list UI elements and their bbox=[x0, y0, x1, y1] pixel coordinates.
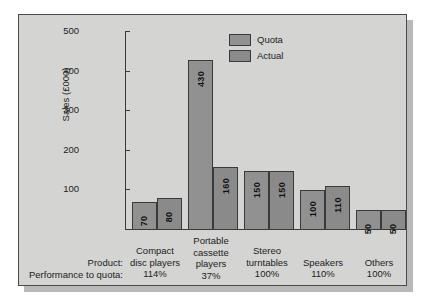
y-tick-label-300: 300 bbox=[39, 105, 79, 114]
y-tick-label-500: 500 bbox=[39, 26, 79, 35]
bar-value-actual-portable-cassette-players: 160 bbox=[220, 178, 230, 194]
bar-value-actual-speakers: 110 bbox=[332, 198, 342, 213]
bar-quota-compact-disc-players: 70 bbox=[132, 202, 157, 230]
category-pct-stereo-turntables: 100% bbox=[239, 268, 295, 280]
y-tick-label-200: 200 bbox=[39, 145, 79, 154]
bar-value-quota-portable-cassette-players: 430 bbox=[195, 71, 205, 87]
bar-quota-stereo-turntables: 150 bbox=[244, 171, 269, 230]
bars-layer: 70 80 430 160 150 bbox=[126, 31, 402, 230]
category-pct-speakers: 110% bbox=[295, 268, 351, 280]
y-tick-label-400: 400 bbox=[39, 66, 79, 75]
y-axis-title: Sales (£000) bbox=[60, 35, 71, 155]
category-column-others: Others 100% bbox=[351, 235, 407, 280]
bar-value-quota-speakers: 100 bbox=[307, 201, 317, 217]
bar-value-actual-compact-disc-players: 80 bbox=[165, 212, 175, 223]
category-name-others: Others bbox=[351, 257, 407, 269]
category-name-portable-cassette-players: Portable cassette players bbox=[183, 235, 239, 270]
category-pct-portable-cassette-players: 37% bbox=[183, 270, 239, 282]
bar-actual-stereo-turntables: 150 bbox=[269, 171, 294, 230]
category-pct-others: 100% bbox=[351, 268, 407, 280]
bar-group-speakers: 100 110 bbox=[300, 31, 352, 230]
category-pct-compact-disc-players: 114% bbox=[127, 268, 183, 280]
row-heading-performance: Performance to quota: bbox=[0, 269, 123, 280]
bar-actual-others: 50 bbox=[381, 210, 406, 230]
category-name-speakers: Speakers bbox=[295, 257, 351, 269]
category-name-stereo-turntables: Stereo turntables bbox=[239, 245, 295, 268]
bar-group-others: 50 50 bbox=[356, 31, 408, 230]
bar-value-quota-others: 50 bbox=[364, 224, 374, 235]
bar-group-portable-cassette-players: 430 160 bbox=[188, 31, 240, 230]
bar-value-actual-stereo-turntables: 150 bbox=[276, 182, 286, 198]
category-column-speakers: Speakers 110% bbox=[295, 235, 351, 280]
category-column-compact-disc-players: Compact disc players 114% bbox=[127, 235, 183, 280]
chart-panel: Sales (£000) 500 400 300 200 100 Quota A… bbox=[18, 14, 407, 286]
bar-value-quota-stereo-turntables: 150 bbox=[251, 182, 261, 198]
category-label-block: Product: Performance to quota: Compact d… bbox=[19, 235, 406, 283]
bar-value-quota-compact-disc-players: 70 bbox=[140, 216, 150, 227]
bar-actual-compact-disc-players: 80 bbox=[157, 198, 182, 230]
bar-actual-speakers: 110 bbox=[325, 186, 350, 230]
bar-value-actual-others: 50 bbox=[389, 224, 399, 235]
bar-group-stereo-turntables: 150 150 bbox=[244, 31, 296, 230]
bar-group-compact-disc-players: 70 80 bbox=[132, 31, 184, 230]
category-column-stereo-turntables: Stereo turntables 100% bbox=[239, 235, 295, 280]
y-tick-label-100: 100 bbox=[39, 184, 79, 193]
category-name-compact-disc-players: Compact disc players bbox=[127, 245, 183, 268]
bar-quota-others: 50 bbox=[356, 210, 381, 230]
bar-actual-portable-cassette-players: 160 bbox=[213, 167, 238, 230]
bar-quota-portable-cassette-players: 430 bbox=[188, 60, 213, 230]
row-heading-product: Product: bbox=[0, 257, 123, 268]
bar-quota-speakers: 100 bbox=[300, 190, 325, 230]
category-column-portable-cassette-players: Portable cassette players 37% bbox=[183, 235, 239, 281]
figure-root: Sales (£000) 500 400 300 200 100 Quota A… bbox=[0, 0, 427, 307]
